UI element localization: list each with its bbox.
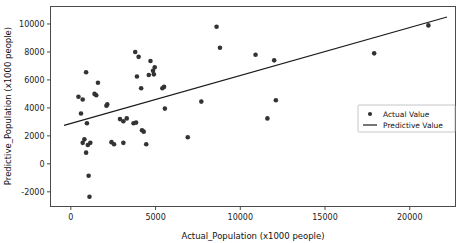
data-point: [124, 116, 129, 121]
y-tick-label: 6000: [24, 76, 44, 85]
y-tick-label: 4000: [24, 104, 44, 113]
x-tick-label: 5000: [145, 213, 165, 222]
chart-legend[interactable]: Actual ValuePredictive Value: [358, 105, 455, 132]
data-point: [80, 97, 85, 102]
data-point: [134, 120, 139, 125]
y-axis-title: Predictive_Population (x1000 people): [3, 27, 13, 185]
data-point: [84, 150, 89, 155]
x-tick-label: 0: [68, 213, 73, 222]
legend-dot-icon: [368, 112, 372, 116]
figure-canvas: 05000100001500020000 -200002000400060008…: [0, 0, 464, 243]
data-point: [96, 80, 101, 85]
data-point: [86, 173, 91, 178]
y-tick-label: 10000: [19, 20, 44, 29]
data-point: [112, 142, 117, 147]
legend-entry-label: Predictive Value: [383, 121, 443, 130]
data-point: [94, 93, 99, 98]
data-point: [88, 141, 93, 146]
data-point: [121, 141, 126, 146]
data-point: [84, 70, 89, 75]
scatter-plot: 05000100001500020000 -200002000400060008…: [0, 0, 464, 243]
data-point: [136, 55, 141, 60]
data-point: [218, 45, 223, 50]
data-point: [372, 51, 377, 56]
data-point: [253, 52, 258, 57]
data-point: [144, 142, 149, 147]
data-point: [214, 24, 219, 29]
x-axis-ticks: 05000100001500020000: [68, 207, 422, 222]
data-point: [105, 102, 110, 107]
data-point: [272, 58, 277, 63]
data-point: [80, 141, 85, 146]
data-point: [76, 94, 81, 99]
data-point: [426, 23, 431, 28]
data-point: [152, 72, 157, 77]
data-point: [163, 106, 168, 111]
y-tick-label: -2000: [21, 188, 44, 197]
data-point: [185, 135, 190, 140]
data-point: [87, 194, 92, 199]
y-tick-label: 2000: [24, 132, 44, 141]
data-point: [79, 111, 84, 116]
data-point: [141, 129, 146, 134]
data-point: [139, 86, 144, 91]
data-point: [85, 121, 90, 126]
legend-entry-label: Actual Value: [383, 110, 430, 119]
y-axis-ticks: -20000200040006000800010000: [19, 20, 50, 197]
data-point: [274, 98, 279, 103]
x-tick-label: 20000: [397, 213, 422, 222]
x-tick-label: 10000: [228, 213, 253, 222]
data-point: [199, 99, 204, 104]
x-axis-title: Actual_Population (x1000 people): [181, 231, 324, 241]
data-point: [135, 74, 140, 79]
data-point: [148, 59, 153, 64]
data-point: [162, 85, 167, 90]
data-point: [133, 50, 138, 55]
x-tick-label: 15000: [312, 213, 337, 222]
y-tick-label: 8000: [24, 48, 44, 57]
y-tick-label: 0: [39, 160, 44, 169]
data-point: [146, 73, 151, 78]
data-point: [265, 116, 270, 121]
data-point: [152, 65, 157, 70]
